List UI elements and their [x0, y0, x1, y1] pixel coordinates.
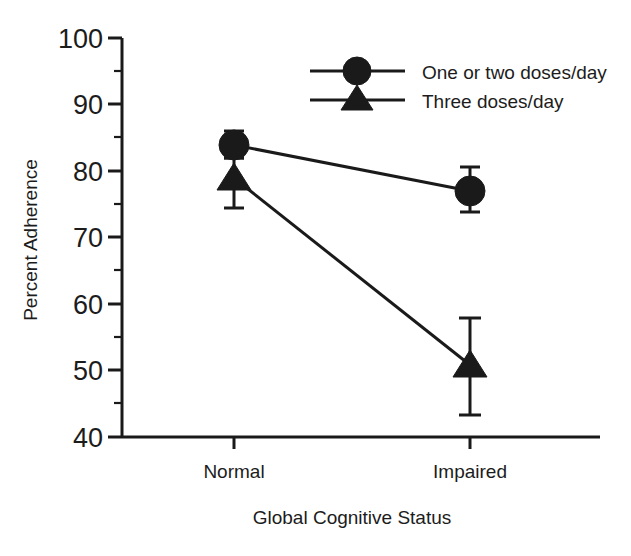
x-axis: Normal Impaired Global Cognitive Status — [122, 437, 600, 528]
series-three-doses — [217, 158, 487, 415]
data-point-triangle-normal — [217, 163, 251, 190]
x-axis-title: Global Cognitive Status — [253, 507, 452, 528]
circle-marker-icon — [343, 57, 371, 85]
legend-label-three-doses: Three doses/day — [422, 91, 564, 112]
data-point-circle-normal — [219, 130, 249, 160]
y-tick-label-100: 100 — [58, 24, 103, 54]
y-tick-label-90: 90 — [73, 90, 103, 120]
y-axis-title: Percent Adherence — [20, 159, 41, 321]
y-tick-label-80: 80 — [73, 157, 103, 187]
legend-item-three-doses: Three doses/day — [310, 85, 564, 112]
series-line-triangle — [234, 178, 470, 365]
y-tick-label-50: 50 — [73, 356, 103, 386]
series-line-circle — [234, 145, 470, 191]
y-tick-label-40: 40 — [73, 423, 103, 453]
legend-item-one-or-two-doses: One or two doses/day — [310, 57, 607, 85]
x-tick-label-normal: Normal — [203, 461, 264, 482]
chart-canvas: 100 90 80 70 60 50 40 Percent Adherence … — [0, 0, 631, 556]
y-tick-label-60: 60 — [73, 290, 103, 320]
y-tick-label-70: 70 — [73, 223, 103, 253]
series-one-or-two-doses — [219, 130, 485, 212]
data-point-circle-impaired — [455, 176, 485, 206]
y-axis: 100 90 80 70 60 50 40 Percent Adherence — [20, 24, 122, 453]
triangle-marker-icon — [341, 85, 373, 110]
legend: One or two doses/day Three doses/day — [310, 57, 607, 112]
x-tick-label-impaired: Impaired — [433, 461, 507, 482]
chart-figure: 100 90 80 70 60 50 40 Percent Adherence … — [0, 0, 631, 556]
legend-label-one-or-two-doses: One or two doses/day — [422, 62, 607, 83]
